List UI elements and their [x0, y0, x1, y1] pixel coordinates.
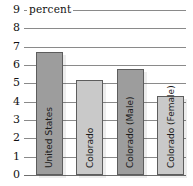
bar-chart: 9 8 7 6 5 4 3 2 1 0 United States	[0, 0, 193, 186]
y-tick-label: 8	[0, 23, 20, 33]
gridline	[24, 28, 186, 29]
gridline	[24, 47, 186, 48]
gridline-baseline	[24, 175, 186, 176]
y-axis-caption: percent	[27, 4, 73, 14]
bar-label: Colorado (Male)	[126, 97, 135, 168]
y-tick-label: 6	[0, 60, 20, 70]
y-tick-label: 1	[0, 152, 20, 162]
y-tick-label: 3	[0, 115, 20, 125]
bar[interactable]: Colorado (Female)	[157, 96, 184, 175]
y-tick-label: 4	[0, 97, 20, 107]
bar[interactable]: Colorado	[76, 80, 103, 175]
y-tick-label: 7	[0, 42, 20, 52]
plot-area: United States Colorado Colorado (Male) C…	[24, 10, 186, 175]
y-tick-label: 9	[0, 5, 20, 15]
bar[interactable]: United States	[36, 52, 63, 175]
y-tick-label: 5	[0, 78, 20, 88]
y-tick-label: 0	[0, 170, 20, 180]
y-tick-label: 2	[0, 133, 20, 143]
bar[interactable]: Colorado (Male)	[117, 69, 144, 175]
bar-label: Colorado (Female)	[166, 85, 175, 168]
bar-label: Colorado	[85, 128, 94, 168]
bar-label: United States	[45, 107, 54, 168]
